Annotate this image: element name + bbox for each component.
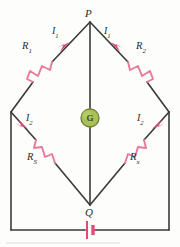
battery-symbol <box>85 221 95 239</box>
current-label-i2-right: I2 <box>137 113 144 126</box>
resistor-rs-zigzag <box>34 140 55 163</box>
resistor-r2-zigzag <box>128 62 153 82</box>
resistor-r1-zigzag <box>27 62 52 82</box>
current-arrow-i2-right <box>152 119 165 129</box>
resistor-label-r1: R1 <box>22 41 32 54</box>
current-label-i1-left: I1 <box>52 26 59 39</box>
resistor-label-r2: R2 <box>136 41 146 54</box>
wire-r2-to-right <box>147 82 169 112</box>
wheatstone-bridge-figure: P Q R1 R2 RS Rx I1 I1 I2 I2 G <box>0 0 180 247</box>
wire-rs-to-q <box>55 163 90 205</box>
resistor-label-rs: RS <box>27 152 37 165</box>
node-label-p: P <box>85 8 92 19</box>
resistor-label-rx: Rx <box>130 152 140 165</box>
wire-rx-to-q <box>90 163 125 205</box>
current-label-i1-right: I1 <box>104 26 111 39</box>
current-label-i2-left: I2 <box>26 113 33 126</box>
wire-r1-to-left <box>11 82 33 112</box>
node-label-q: Q <box>85 207 93 218</box>
galvanometer-label: G <box>82 110 98 126</box>
